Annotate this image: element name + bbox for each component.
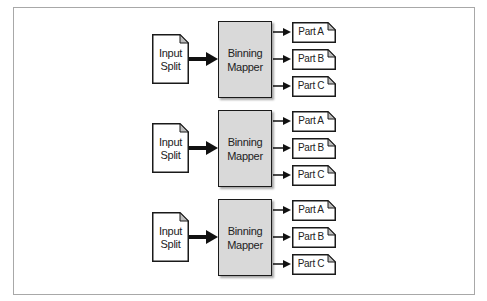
part-a-document: Part A	[292, 111, 336, 132]
binning-mapper-label: Binning Mapper	[219, 224, 271, 252]
binning-mapper-box: Binning Mapper	[218, 110, 272, 187]
binning-mapper-box: Binning Mapper	[218, 199, 272, 276]
input-split-label: Input Split	[152, 47, 189, 73]
binning-mapper-label: Binning Mapper	[219, 135, 271, 163]
input-split-document: Input Split	[152, 212, 189, 262]
input-split-document: Input Split	[152, 34, 189, 84]
mapper-group-1: Input Split Binning Mapper Part A Part B…	[0, 0, 487, 89]
part-label: Part B	[292, 142, 336, 154]
part-c-document: Part C	[292, 254, 336, 275]
input-split-document: Input Split	[152, 123, 189, 173]
mapper-group-2: Input Split Binning Mapper Part A Part B…	[0, 89, 487, 178]
part-label: Part A	[292, 115, 336, 127]
part-label: Part B	[292, 231, 336, 243]
mapper-group-3: Input Split Binning Mapper Part A Part B…	[0, 178, 487, 267]
part-b-document: Part B	[292, 49, 336, 70]
binning-mapper-label: Binning Mapper	[219, 46, 271, 74]
part-b-document: Part B	[292, 227, 336, 248]
binning-mapper-box: Binning Mapper	[218, 21, 272, 98]
part-a-document: Part A	[292, 200, 336, 221]
input-split-label: Input Split	[152, 136, 189, 162]
part-a-document: Part A	[292, 22, 336, 43]
part-label: Part A	[292, 26, 336, 38]
part-label: Part A	[292, 204, 336, 216]
part-b-document: Part B	[292, 138, 336, 159]
part-label: Part C	[292, 258, 336, 270]
part-label: Part B	[292, 53, 336, 65]
input-split-label: Input Split	[152, 225, 189, 251]
